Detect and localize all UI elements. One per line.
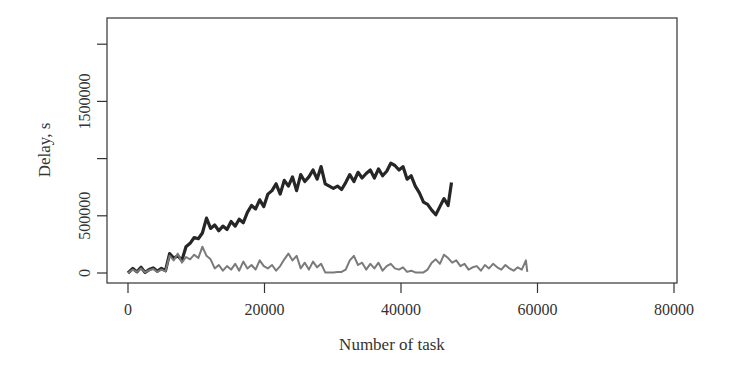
chart-svg: 020000400006000080000 05000001500000 Num…	[0, 0, 737, 367]
chart-background	[0, 0, 737, 367]
y-tick-label: 500000	[76, 192, 93, 240]
x-tick-label: 0	[124, 301, 132, 318]
delay-chart: 020000400006000080000 05000001500000 Num…	[0, 0, 737, 367]
y-tick-label: 0	[76, 269, 93, 277]
x-tick-label: 60000	[518, 301, 558, 318]
x-tick-label: 20000	[245, 301, 285, 318]
x-tick-label: 40000	[381, 301, 421, 318]
x-axis-label: Number of task	[339, 335, 445, 354]
y-tick-label: 1500000	[76, 73, 93, 129]
y-axis-label: Delay, s	[35, 123, 54, 178]
x-tick-label: 80000	[654, 301, 694, 318]
